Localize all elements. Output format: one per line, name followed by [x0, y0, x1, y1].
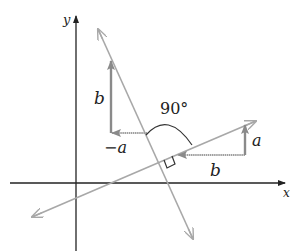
label-angle: 90° — [160, 99, 188, 118]
original-line — [32, 121, 256, 217]
label-b-horizontal: b — [210, 160, 221, 180]
y-axis-label: y — [62, 12, 71, 27]
diagram-canvas: y x b −a 90° a b — [0, 0, 296, 251]
label-b-vertical: b — [94, 88, 105, 108]
label-a-vertical: a — [252, 131, 262, 150]
label-neg-a: −a — [104, 138, 127, 157]
x-axis-label: x — [283, 186, 290, 200]
angle-arc — [146, 125, 192, 145]
